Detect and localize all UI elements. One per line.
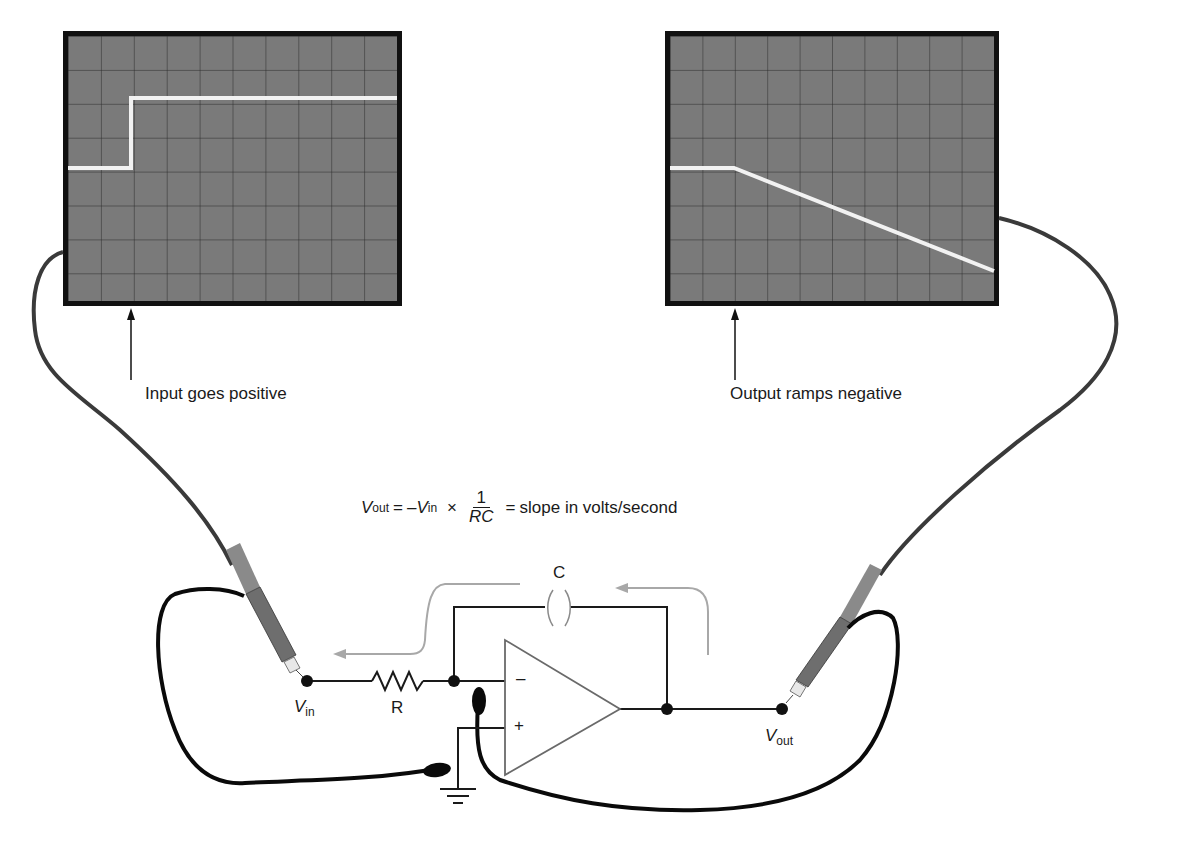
inverting-node bbox=[448, 675, 460, 687]
output-node bbox=[661, 703, 673, 715]
formula-vout-sub: out bbox=[372, 501, 389, 515]
vin-label-sub: in bbox=[305, 705, 314, 719]
formula-numerator: 1 bbox=[473, 489, 490, 508]
formula-equals: = bbox=[393, 498, 403, 518]
resistor-label: R bbox=[391, 698, 403, 718]
input-arrow bbox=[127, 308, 135, 380]
op-amp bbox=[505, 640, 620, 775]
formula-equals-2: = bbox=[506, 498, 516, 518]
output-probe bbox=[786, 564, 882, 703]
vout-terminal bbox=[776, 703, 788, 715]
current-flow-arrows bbox=[333, 583, 708, 659]
opamp-plus-label: + bbox=[514, 716, 524, 736]
output-caption: Output ramps negative bbox=[730, 384, 902, 404]
integrator-diagram bbox=[0, 0, 1178, 845]
input-scope bbox=[63, 31, 402, 306]
formula-minus-vin: –V bbox=[407, 498, 428, 518]
vout-label: Vout bbox=[765, 726, 793, 748]
vout-label-sub: out bbox=[776, 734, 793, 748]
integrator-formula: Vout = –Vin × 1 RC = slope in volts/seco… bbox=[361, 489, 677, 526]
input-caption: Input goes positive bbox=[145, 384, 287, 404]
input-probe bbox=[226, 543, 304, 678]
formula-times: × bbox=[447, 498, 457, 518]
output-arrow bbox=[731, 308, 739, 380]
formula-result: slope in volts/second bbox=[520, 498, 678, 518]
capacitor-label: C bbox=[553, 563, 565, 583]
vout-label-v: V bbox=[765, 726, 776, 745]
input-ground-lead bbox=[158, 589, 440, 783]
vin-label: Vin bbox=[294, 697, 315, 719]
resistor bbox=[372, 672, 423, 690]
vin-label-v: V bbox=[294, 697, 305, 716]
formula-denominator: RC bbox=[469, 508, 494, 526]
formula-vout: V bbox=[361, 498, 372, 518]
opamp-minus-label: – bbox=[516, 669, 525, 689]
formula-fraction: 1 RC bbox=[469, 489, 494, 526]
capacitor bbox=[548, 590, 571, 626]
vin-terminal bbox=[301, 675, 313, 687]
output-scope bbox=[665, 31, 999, 306]
formula-vin-sub: in bbox=[428, 501, 437, 515]
